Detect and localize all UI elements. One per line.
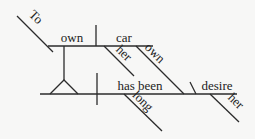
- word-to: To: [26, 7, 46, 27]
- sentence-diagram: To own car her own has been desire long …: [0, 0, 255, 139]
- word-own-modifier: own: [142, 40, 169, 67]
- pedestal-triangle: [50, 80, 78, 94]
- predicate-complement-divider: [190, 82, 196, 94]
- word-own-verb: own: [61, 30, 84, 45]
- word-desire: desire: [201, 78, 232, 93]
- word-her-upper: her: [113, 42, 136, 65]
- word-her-lower: her: [225, 90, 248, 113]
